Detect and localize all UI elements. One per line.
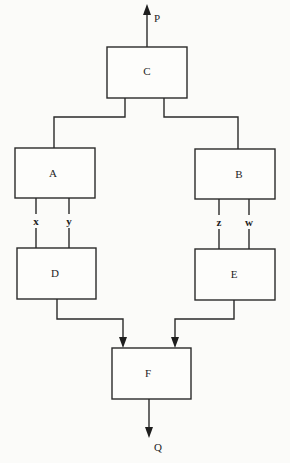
wire-d-to-f	[57, 299, 123, 339]
signal-label-x: x	[33, 215, 39, 227]
arrowhead-d-to-f	[119, 337, 127, 348]
block-label-b: B	[235, 168, 242, 180]
wire-e-to-f	[175, 300, 234, 339]
block-label-f: F	[145, 367, 151, 379]
signal-label-q: Q	[154, 441, 162, 453]
wire-c-to-a	[54, 98, 125, 148]
signal-label-p: P	[154, 12, 160, 24]
signal-label-w: w	[245, 216, 253, 228]
block-label-a: A	[49, 167, 57, 179]
arrowhead-q	[145, 427, 153, 438]
block-label-c: C	[143, 65, 150, 77]
signal-label-z: z	[217, 216, 222, 228]
block-f	[112, 348, 191, 399]
block-label-d: D	[51, 267, 59, 279]
block-label-e: E	[231, 268, 238, 280]
signal-label-y: y	[66, 215, 72, 227]
block-diagram: P C A B x y z w D E F Q	[0, 0, 290, 463]
arrowhead-e-to-f	[171, 337, 179, 348]
wire-c-to-b	[164, 98, 238, 149]
arrowhead-p	[143, 4, 151, 15]
